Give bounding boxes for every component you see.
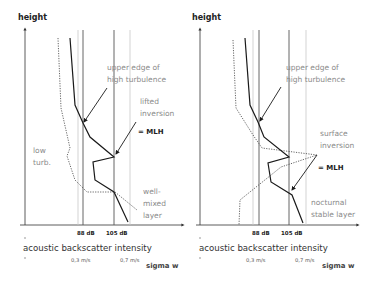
mlh-label: = MLH bbox=[138, 128, 164, 136]
right-panel: height upper edge of high turbulence sur… bbox=[192, 13, 358, 270]
low-turb-label-line1: low bbox=[33, 146, 46, 155]
lifted-inversion-label-line1: lifted bbox=[140, 97, 159, 106]
x-axis-label: acoustic backscatter intensity bbox=[199, 243, 328, 253]
y-axis-label: height bbox=[192, 13, 221, 22]
nocturnal-layer-label-line1: nocturnal bbox=[311, 198, 347, 207]
mlh-label: = MLH bbox=[318, 164, 344, 172]
tick-0-3ms: 0,3 m/s bbox=[71, 257, 91, 263]
tick-0-3ms: 0,3 m/s bbox=[246, 257, 266, 263]
upper-edge-label-line2: high turbulence bbox=[286, 75, 346, 84]
lifted-inversion-label-line2: inversion bbox=[140, 109, 175, 118]
mlh-arrow bbox=[116, 122, 136, 154]
mlh-arrow bbox=[292, 155, 317, 190]
y-axis-label: height bbox=[18, 13, 47, 22]
upper-edge-label-line2: high turbulence bbox=[107, 75, 167, 84]
tick-105db: 105 dB bbox=[281, 230, 303, 236]
well-mixed-label-line2: mixed bbox=[143, 199, 166, 208]
tick-88db: 88 dB bbox=[77, 230, 95, 236]
upper-edge-label-line1: upper edge of bbox=[286, 63, 339, 72]
tick-0-7ms: 0,7 m/s bbox=[120, 257, 140, 263]
left-panel: height upper edge of high turbulence lif… bbox=[18, 13, 183, 270]
surface-inversion-label-line1: surface bbox=[320, 129, 348, 138]
well-mixed-label-line1: well- bbox=[143, 187, 161, 196]
tick-0-7ms: 0,7 m/s bbox=[295, 257, 315, 263]
nocturnal-layer-label-line2: stable layer bbox=[311, 210, 356, 219]
surface-inversion-label-line2: inversion bbox=[320, 141, 355, 150]
x-axis-label: acoustic backscatter intensity bbox=[23, 243, 152, 253]
low-turb-label-line2: turb. bbox=[33, 158, 51, 167]
tick-88db: 88 dB bbox=[252, 230, 270, 236]
sigma-w-label: sigma w bbox=[146, 262, 179, 270]
upper-edge-arrow bbox=[84, 88, 107, 122]
well-mixed-label-line3: layer bbox=[143, 211, 163, 220]
sigma-w-label: sigma w bbox=[322, 262, 355, 270]
upper-edge-label-line1: upper edge of bbox=[107, 63, 160, 72]
tick-105db: 105 dB bbox=[106, 230, 128, 236]
mlh-diagram: height upper edge of high turbulence lif… bbox=[0, 0, 374, 283]
upper-edge-arrow bbox=[260, 87, 281, 121]
